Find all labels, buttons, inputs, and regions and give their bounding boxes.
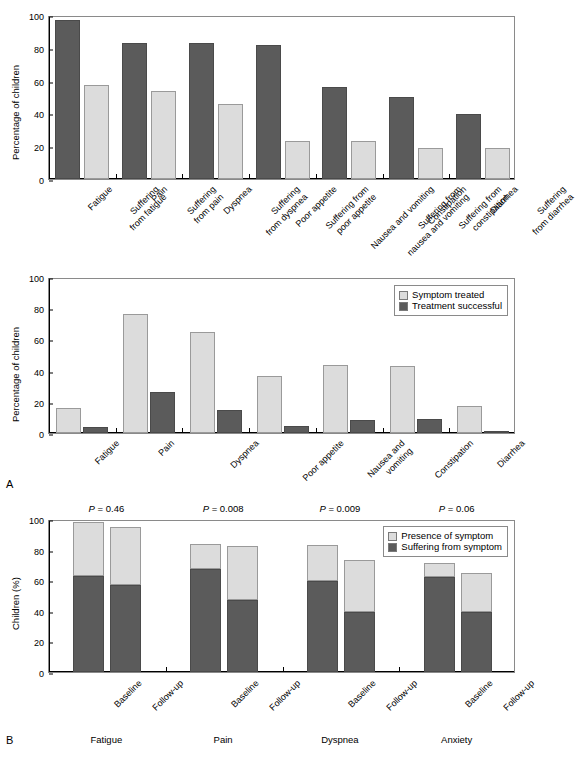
bar-dark — [389, 97, 414, 179]
chart-top-ylabel: Percentage of children — [10, 65, 21, 160]
stacked-bar — [110, 527, 141, 672]
bar-dark — [284, 426, 309, 433]
chart-middle-ytick: 40 — [34, 368, 49, 377]
chart-bottom-ytick: 40 — [34, 608, 49, 617]
group-label: Pain — [165, 734, 282, 745]
chart-bottom-ytick: 20 — [34, 639, 49, 648]
chart-bottom-legend-item: Presence of symptom — [388, 531, 502, 541]
bar-dark — [456, 114, 481, 179]
group-tick — [182, 428, 183, 433]
group-tick — [449, 174, 450, 179]
chart-top-ytick: 60 — [34, 78, 49, 87]
x-axis-label: Baseline — [229, 678, 261, 710]
bar-light — [457, 406, 482, 433]
group-tick — [383, 174, 384, 179]
chart-top-ytick: 100 — [29, 13, 49, 22]
stacked-bar — [344, 560, 375, 672]
chart-bottom-legend-item: Suffering from symptom — [388, 542, 502, 552]
chart-middle-x-axis — [49, 432, 514, 433]
bar-dark — [484, 431, 509, 433]
bar-segment-presence — [73, 522, 104, 576]
bar-light — [56, 408, 81, 433]
tick-mark — [49, 49, 53, 50]
x-axis-label: Suffering from dyspnea — [256, 184, 309, 237]
chart-middle-ytick: 60 — [34, 337, 49, 346]
bar-segment-presence — [344, 560, 375, 613]
stacked-bar — [424, 563, 455, 672]
bar-segment-suffering — [461, 612, 492, 672]
bar-segment-presence — [461, 573, 492, 612]
chart-top-y-axis — [49, 17, 50, 179]
group-tick — [249, 428, 250, 433]
group-tick — [399, 667, 400, 672]
group-tick — [182, 174, 183, 179]
bar-dark — [122, 43, 147, 179]
bar-light — [84, 85, 109, 179]
legend-swatch-light — [399, 291, 408, 300]
group-label: Anxiety — [398, 734, 515, 745]
chart-middle-ytick: 0 — [39, 431, 49, 440]
tick-mark — [49, 582, 53, 583]
group-tick — [166, 667, 167, 672]
group-tick — [249, 174, 250, 179]
pvalue-annotation: P = 0.008 — [203, 503, 244, 514]
bar-segment-suffering — [344, 612, 375, 672]
bar-segment-suffering — [307, 581, 338, 672]
group-label: Fatigue — [48, 734, 165, 745]
bar-light — [390, 366, 415, 433]
stacked-bar — [461, 573, 492, 672]
bar-segment-presence — [227, 546, 258, 600]
bar-dark — [189, 43, 214, 179]
panel-a-letter: A — [6, 478, 13, 490]
legend-swatch-dark — [388, 543, 397, 552]
bar-light — [151, 91, 176, 179]
chart-top-ytick: 0 — [39, 177, 49, 186]
group-tick — [316, 174, 317, 179]
bar-light — [351, 141, 376, 179]
tick-mark — [49, 17, 53, 18]
bar-light — [257, 376, 282, 433]
x-axis-label: Baseline — [463, 678, 495, 710]
pvalue-symbol: P — [89, 503, 95, 514]
tick-mark — [49, 341, 53, 342]
chart-bottom-ylabel: Children (%) — [10, 577, 21, 630]
pvalue-symbol: P — [203, 503, 209, 514]
x-axis-label: Pain — [156, 438, 176, 458]
x-axis-label: Nausea and vomiting — [365, 438, 414, 487]
chart-bottom-legend: Presence of symptomSuffering from sympto… — [383, 526, 508, 557]
x-axis-label: Constipation — [433, 438, 476, 481]
legend-label: Suffering from symptom — [401, 542, 502, 552]
chart-middle-ytick: 100 — [29, 275, 49, 284]
caption-edge — [0, 752, 523, 758]
bar-light — [285, 141, 310, 179]
bar-segment-suffering — [190, 569, 221, 672]
stacked-bar — [307, 545, 338, 672]
bar-segment-presence — [307, 545, 338, 581]
stacked-bar — [73, 522, 104, 672]
chart-bottom-y-axis — [49, 521, 50, 672]
chart-middle-panel: Percentage of children Symptom treatedTr… — [0, 262, 523, 500]
tick-mark — [49, 521, 53, 522]
group-tick — [383, 428, 384, 433]
group-tick — [449, 428, 450, 433]
tick-mark — [49, 148, 53, 149]
bar-segment-suffering — [424, 577, 455, 672]
tick-mark — [49, 115, 53, 116]
bar-dark — [322, 87, 347, 179]
x-axis-label: Baseline — [112, 678, 144, 710]
chart-bottom-ytick: 100 — [29, 517, 49, 526]
tick-mark — [49, 435, 53, 436]
x-axis-label: Suffering from diarrhea — [522, 184, 575, 237]
chart-top-ytick: 40 — [34, 111, 49, 120]
x-axis-label: Dyspnea — [228, 438, 261, 471]
bar-light — [190, 332, 215, 433]
bar-light — [323, 365, 348, 433]
bar-dark — [256, 45, 281, 179]
chart-middle-legend-item: Symptom treated — [399, 290, 502, 300]
x-axis-label: Follow-up — [151, 678, 186, 713]
bar-dark — [55, 20, 80, 179]
group-tick — [283, 667, 284, 672]
chart-top-plot-area: 020406080100 — [48, 16, 515, 180]
tick-mark — [49, 403, 53, 404]
